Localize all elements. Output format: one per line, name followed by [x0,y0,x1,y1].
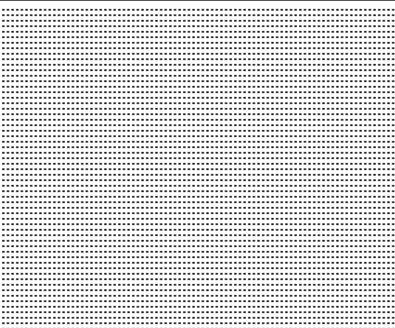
top-border-line [0,0,395,1]
dot-grid-canvas [0,0,395,328]
dot-grid-pattern [1,7,395,328]
